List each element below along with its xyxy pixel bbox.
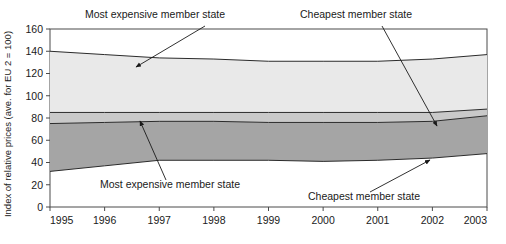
price-dispersion-area-chart: Index of relative prices (ave. for EU 2 … [0, 0, 506, 244]
x-tick-label-1995: 1995 [50, 214, 74, 226]
data-bands [50, 51, 487, 171]
y-tick-label-20: 20 [31, 179, 43, 191]
annotation-label-most-expensive-top: Most expensive member state [85, 8, 225, 20]
x-tick-label-1996: 1996 [93, 214, 117, 226]
x-tick-label-2003: 2003 [464, 214, 488, 226]
annotation-label-cheapest-bottom: Cheapest member state [308, 190, 420, 202]
x-tick-label-1999: 1999 [257, 214, 281, 226]
annotation-label-most-expensive-bottom: Most expensive member state [100, 178, 240, 190]
x-tick-label-2000: 2000 [311, 214, 335, 226]
chart-figure: Index of relative prices (ave. for EU 2 … [0, 0, 506, 244]
y-axis-title: Index of relative prices (ave. for EU 2 … [2, 31, 13, 217]
x-axis-ticks: 199519961997199819992000200120022003 [50, 207, 487, 226]
annotation-label-cheapest-top: Cheapest member state [300, 8, 412, 20]
y-tick-label-160: 160 [25, 23, 43, 35]
y-tick-label-0: 0 [37, 201, 43, 213]
y-tick-label-140: 140 [25, 45, 43, 57]
y-axis-ticks: 020406080100120140160 [25, 23, 50, 213]
y-tick-label-40: 40 [31, 156, 43, 168]
y-tick-label-60: 60 [31, 134, 43, 146]
y-tick-label-100: 100 [25, 90, 43, 102]
x-tick-label-1998: 1998 [202, 214, 226, 226]
x-tick-label-2001: 2001 [366, 214, 390, 226]
x-tick-label-1997: 1997 [148, 214, 172, 226]
x-tick-label-2002: 2002 [421, 214, 445, 226]
y-tick-label-120: 120 [25, 67, 43, 79]
y-tick-label-80: 80 [31, 112, 43, 124]
